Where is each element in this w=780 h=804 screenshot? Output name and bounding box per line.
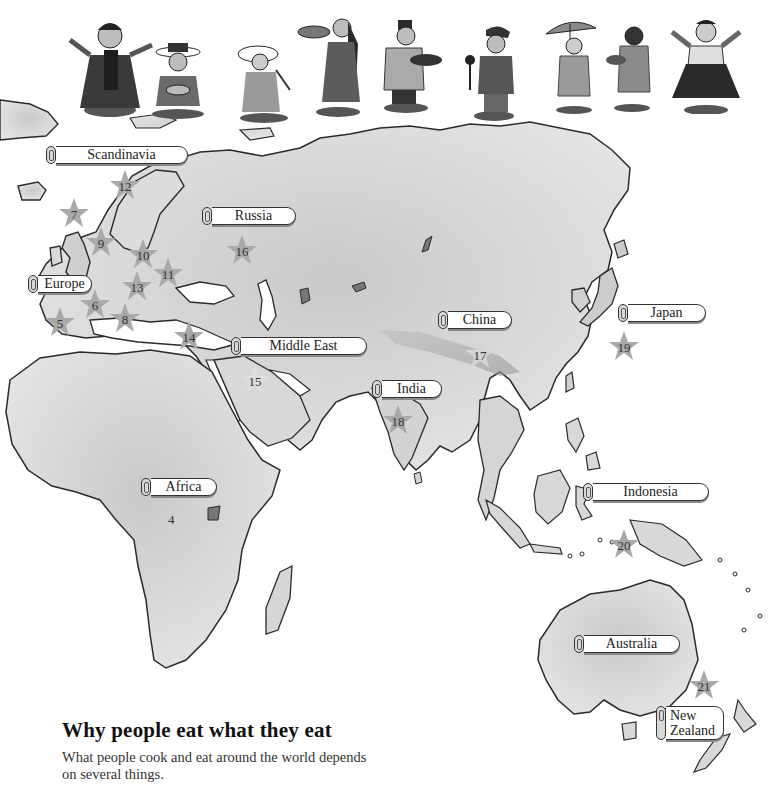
marker-16: 16 xyxy=(226,234,258,264)
kid-9-illustration xyxy=(668,18,744,114)
marker-8: 8 xyxy=(109,302,141,332)
new-guinea xyxy=(630,520,702,566)
label-new-zealand: New Zealand xyxy=(656,706,724,740)
greenland-fragment xyxy=(0,100,58,140)
world-map xyxy=(0,0,780,804)
kid-6-illustration xyxy=(462,22,522,122)
scroll-curl-icon xyxy=(46,146,56,164)
marker-7: 7 xyxy=(58,197,90,227)
iceland xyxy=(18,182,46,200)
kid-8-illustration xyxy=(606,22,656,112)
kid-1-illustration xyxy=(60,10,160,120)
ireland xyxy=(50,246,62,266)
label-middle-east: Middle East xyxy=(231,337,367,355)
kid-4-illustration xyxy=(296,14,366,118)
marker-4: 4 xyxy=(168,512,175,528)
new-zealand-north xyxy=(734,700,756,732)
lake-victoria xyxy=(208,506,220,520)
caption-block: Why people eat what they eat What people… xyxy=(62,718,392,783)
marker-15: 15 xyxy=(239,364,271,394)
map-page: Scandinavia Russia Europe Middle East Ch… xyxy=(0,0,780,804)
label-africa: Africa xyxy=(141,478,217,496)
label-australia: Australia xyxy=(574,635,680,653)
caption-body: What people cook and eat around the worl… xyxy=(62,749,372,783)
kid-5-illustration xyxy=(378,18,446,114)
indochina xyxy=(478,396,524,520)
kid-7-illustration xyxy=(544,12,600,114)
scroll-curl-icon xyxy=(372,380,382,398)
label-india: India xyxy=(372,380,442,398)
java xyxy=(530,544,562,554)
kid-3-illustration xyxy=(232,40,292,124)
marker-20: 20 xyxy=(608,528,640,558)
caption-title: Why people eat what they eat xyxy=(62,718,392,743)
marker-14: 14 xyxy=(173,320,205,350)
marker-17: 17 xyxy=(464,338,496,368)
marker-13: 13 xyxy=(121,270,153,300)
label-new-zealand-line1: New xyxy=(670,708,696,723)
marker-9: 9 xyxy=(85,226,117,256)
scroll-curl-icon xyxy=(656,706,666,740)
kid-2-illustration xyxy=(148,40,208,120)
marker-5: 5 xyxy=(44,306,76,336)
sri-lanka xyxy=(414,472,422,484)
sumatra xyxy=(486,500,530,548)
scroll-curl-icon xyxy=(618,304,628,322)
label-scandinavia: Scandinavia xyxy=(46,146,188,164)
scroll-curl-icon xyxy=(583,483,593,501)
label-russia: Russia xyxy=(202,207,296,225)
taiwan xyxy=(566,372,574,392)
marker-18: 18 xyxy=(382,404,414,434)
borneo xyxy=(534,470,570,524)
scroll-curl-icon xyxy=(231,337,241,355)
scroll-curl-icon xyxy=(574,635,584,653)
scroll-curl-icon xyxy=(202,207,212,225)
label-indonesia: Indonesia xyxy=(583,483,709,501)
scroll-curl-icon xyxy=(438,311,448,329)
philippines xyxy=(566,418,600,470)
scroll-curl-icon xyxy=(141,478,151,496)
marker-21: 21 xyxy=(688,669,720,699)
marker-11: 11 xyxy=(152,257,184,287)
label-china: China xyxy=(438,311,512,329)
marker-6: 6 xyxy=(79,288,111,318)
label-new-zealand-line2: Zealand xyxy=(670,723,715,738)
tasmania xyxy=(622,722,636,740)
marker-19: 19 xyxy=(608,330,640,360)
marker-12: 12 xyxy=(109,169,141,199)
scroll-curl-icon xyxy=(28,275,38,293)
madagascar xyxy=(266,566,292,634)
label-japan: Japan xyxy=(618,304,706,322)
hokkaido xyxy=(614,240,628,258)
